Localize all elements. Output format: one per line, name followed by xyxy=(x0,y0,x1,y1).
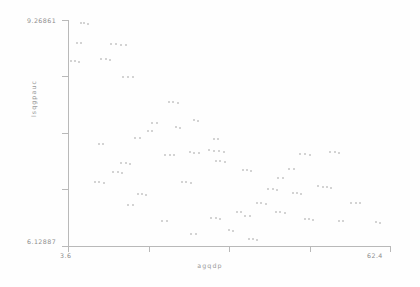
scatter-point xyxy=(147,130,149,132)
scatter-point xyxy=(308,218,310,220)
scatter-point xyxy=(210,217,212,219)
scatter-point xyxy=(195,233,197,235)
x-tick-1 xyxy=(149,246,150,252)
scatter-point xyxy=(98,181,100,183)
scatter-point xyxy=(103,182,105,184)
scatter-point xyxy=(173,154,175,156)
scatter-point xyxy=(232,230,234,232)
scatter-point xyxy=(137,193,139,195)
scatter-point xyxy=(350,202,352,204)
scatter-point xyxy=(334,151,336,153)
scatter-point xyxy=(127,204,129,206)
scatter-point xyxy=(156,122,158,124)
scatter-point xyxy=(330,187,332,189)
scatter-point xyxy=(151,122,153,124)
scatter-point xyxy=(127,76,129,78)
scatter-point xyxy=(228,229,230,231)
x-axis-min-label: 3.6 xyxy=(60,252,71,259)
scatter-point xyxy=(300,193,302,195)
scatter-point xyxy=(292,192,294,194)
scatter-point xyxy=(379,222,381,224)
scatter-point xyxy=(293,168,295,170)
scatter-point xyxy=(70,60,72,62)
scatter-point xyxy=(161,220,163,222)
scatter-point xyxy=(172,101,174,103)
scatter-point xyxy=(80,22,82,24)
scatter-point xyxy=(74,60,76,62)
scatter-point xyxy=(179,127,181,129)
scatter-point xyxy=(304,218,306,220)
scatter-point xyxy=(240,211,242,213)
scatter-point xyxy=(277,177,279,179)
scatter-point xyxy=(139,137,141,139)
scatter-point xyxy=(342,220,344,222)
x-axis-title: agqdp xyxy=(0,262,420,269)
x-tick-3 xyxy=(310,246,311,252)
scatter-point xyxy=(249,215,251,217)
scatter-point xyxy=(145,194,147,196)
scatter-point xyxy=(217,138,219,140)
scatter-point xyxy=(213,150,215,152)
scatter-point xyxy=(181,181,183,183)
scatter-point xyxy=(98,143,100,145)
x-tick-4 xyxy=(390,246,391,252)
scatter-point xyxy=(112,171,114,173)
scatter-point xyxy=(250,170,252,172)
scatter-point xyxy=(265,203,267,205)
scatter-point xyxy=(267,188,269,190)
y-axis-min-label: 6.12887 xyxy=(27,238,56,245)
scatter-point xyxy=(125,162,127,164)
scatter-point xyxy=(279,211,281,213)
scatter-point xyxy=(284,212,286,214)
scatter-point xyxy=(260,202,262,204)
scatter-point xyxy=(141,193,143,195)
scatter-point xyxy=(299,153,301,155)
y-axis-title: lsqgpauc xyxy=(30,64,37,134)
scatter-point xyxy=(190,233,192,235)
scatter-point xyxy=(78,61,80,63)
scatter-point xyxy=(256,202,258,204)
scatter-point xyxy=(304,153,306,155)
scatter-point xyxy=(134,137,136,139)
scatter-point xyxy=(215,217,217,219)
scatter-point xyxy=(87,23,89,25)
scatter-point xyxy=(132,76,134,78)
scatter-point xyxy=(322,186,324,188)
scatter-point xyxy=(252,238,254,240)
chart-canvas: 9.26861 6.12887 3.6 62.4 agqdp lsqgpauc xyxy=(0,0,420,287)
scatter-point xyxy=(215,160,217,162)
scatter-point xyxy=(329,151,331,153)
scatter-point xyxy=(208,149,210,151)
scatter-point xyxy=(223,151,225,153)
scatter-point xyxy=(312,219,314,221)
scatter-point xyxy=(224,161,226,163)
scatter-point xyxy=(355,202,357,204)
scatter-point xyxy=(175,126,177,128)
scatter-point xyxy=(189,151,191,153)
scatter-point xyxy=(219,218,221,220)
scatter-point xyxy=(193,152,195,154)
scatter-point xyxy=(129,163,131,165)
scatter-point xyxy=(185,181,187,183)
scatter-point xyxy=(164,154,166,156)
scatter-point xyxy=(282,177,284,179)
scatter-point xyxy=(122,76,124,78)
scatter-point xyxy=(326,186,328,188)
scatter-point xyxy=(110,43,112,45)
scatter-point xyxy=(242,169,244,171)
scatter-point xyxy=(80,42,82,44)
scatter-point xyxy=(198,152,200,154)
scatter-point xyxy=(169,154,171,156)
scatter-point xyxy=(94,181,96,183)
scatter-point xyxy=(246,169,248,171)
scatter-point-group xyxy=(68,20,390,246)
scatter-point xyxy=(375,221,377,223)
scatter-point xyxy=(151,130,153,132)
scatter-point xyxy=(256,239,258,241)
scatter-point xyxy=(168,101,170,103)
scatter-point xyxy=(83,22,85,24)
scatter-point xyxy=(76,42,78,44)
scatter-point xyxy=(276,189,278,191)
scatter-point xyxy=(317,185,319,187)
scatter-point xyxy=(109,59,111,61)
